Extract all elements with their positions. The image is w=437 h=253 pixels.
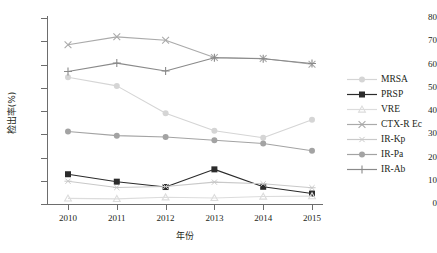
legend-label: PRSP [381,89,403,100]
legend-marker-circle-icon [345,72,379,87]
legend-label: IR-Pa [381,149,403,160]
legend-item-ir-kp[interactable]: IR-Kp [345,132,437,147]
legend-item-mrsa[interactable]: MRSA [345,72,437,87]
series-mrsa [65,74,315,140]
legend-marker-square-icon [345,87,379,102]
chart-figure: 01020304050607080 2010201120122013201420… [0,0,437,253]
legend-item-prsp[interactable]: PRSP [345,87,437,102]
legend-item-ir-ab[interactable]: IR-Ab [345,162,437,177]
legend-marker-cross-x-icon [345,117,379,132]
legend-marker-asterisk-icon [345,132,379,147]
legend-item-vre[interactable]: VRE [345,102,437,117]
legend-item-ctx-r-ec[interactable]: CTX-R Ec [345,117,437,132]
legend-label: VRE [381,104,400,115]
series-vre [65,193,316,202]
legend-marker-circle-dark-icon [345,147,379,162]
series-prsp [65,166,315,196]
legend-label: CTX-R Ec [381,119,422,130]
legend-marker-plus-icon [345,162,379,177]
series-ir-ab [64,54,316,76]
legend-label: IR-Kp [381,134,405,145]
series-ctx-r-ec [65,33,316,67]
legend-label: MRSA [381,74,408,85]
legend-label: IR-Ab [381,164,405,175]
chart-legend: MRSAPRSPVRECTX-R EcIR-KpIR-PaIR-Ab [345,72,437,177]
legend-marker-triangle-icon [345,102,379,117]
legend-item-ir-pa[interactable]: IR-Pa [345,147,437,162]
